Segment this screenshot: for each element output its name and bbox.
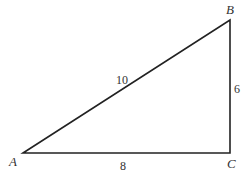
vertex-label-b: B xyxy=(226,2,234,17)
side-label-ab: 10 xyxy=(116,73,128,87)
vertex-label-c: C xyxy=(227,156,236,171)
triangle-diagram: A B C 10 6 8 xyxy=(0,0,252,180)
vertex-label-a: A xyxy=(8,154,17,169)
side-label-ac: 8 xyxy=(120,159,126,173)
side-label-bc: 6 xyxy=(234,82,240,96)
